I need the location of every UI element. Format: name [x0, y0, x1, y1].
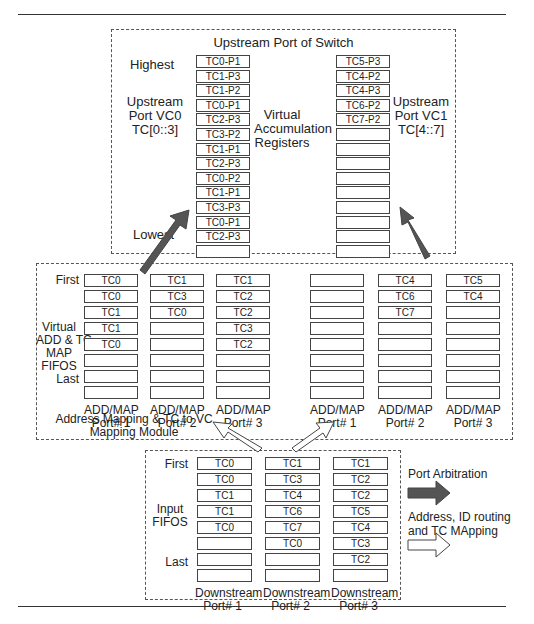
legend-arbitration-arrow-icon: [408, 481, 450, 505]
arbitration-arrow-vc1-icon: [400, 207, 430, 259]
arbitration-arrow-vc0-icon: [140, 210, 189, 274]
legend-routing-arrow-icon: [408, 533, 450, 557]
routing-arrow-vc0-icon: [213, 422, 262, 452]
routing-arrow-vc1-icon: [292, 422, 334, 452]
diagram-arrows: [0, 0, 534, 624]
